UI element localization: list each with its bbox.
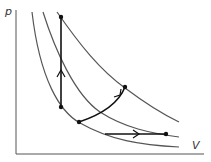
pv-diagram: p V — [0, 0, 211, 162]
y-axis-label: p — [4, 5, 12, 18]
point-top — [59, 15, 63, 19]
point-lower-right — [164, 132, 168, 136]
point-left — [59, 105, 63, 109]
point-bottom — [77, 120, 81, 124]
diagram-canvas: p V — [0, 0, 211, 162]
isotherm-low — [32, 12, 179, 147]
curved-process — [79, 87, 125, 122]
isotherm-high — [57, 12, 179, 122]
point-upper-right — [123, 85, 127, 89]
x-axis-label: V — [192, 139, 201, 152]
